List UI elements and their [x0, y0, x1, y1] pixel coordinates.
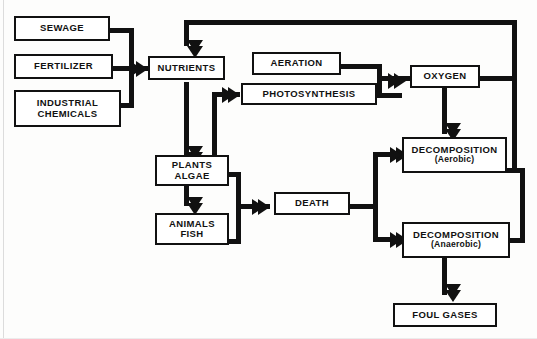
edge-decomp-anaerobic-to-bus-h — [508, 238, 525, 243]
edge-plants-right-stub — [228, 172, 241, 177]
arrowhead-into-nutrients-left — [136, 61, 148, 77]
node-decomposition-anaerobic-sublabel: (Anaerobic) — [431, 240, 481, 249]
node-death[interactable]: DEATH — [274, 192, 350, 215]
edge-death-split-v — [373, 152, 378, 242]
node-animals-fish-sublabel: FISH — [180, 229, 203, 239]
node-plants-algae[interactable]: PLANTS ALGAE — [155, 155, 229, 186]
edge-feedback-top-h — [184, 20, 517, 25]
edge-bus-join-h — [512, 168, 525, 173]
node-nutrients-label: NUTRIENTS — [158, 63, 216, 73]
node-decomposition-aerobic-sublabel: (Aerobic) — [435, 155, 475, 164]
node-animals-fish[interactable]: ANIMALS FISH — [155, 213, 229, 245]
arrowhead-into-foul-gases — [445, 290, 461, 302]
node-death-label: DEATH — [295, 198, 329, 208]
page-edge-left — [3, 0, 4, 339]
node-oxygen-label: OXYGEN — [423, 71, 466, 81]
edge-photosynthesis-h — [376, 93, 402, 98]
node-fertilizer-label: FERTILIZER — [34, 61, 93, 71]
node-photosynthesis[interactable]: PHOTOSYNTHESIS — [241, 83, 377, 105]
edge-animals-right-stub — [228, 239, 241, 244]
edge-plants-to-photosynthesis-v — [212, 92, 217, 164]
node-fertilizer[interactable]: FERTILIZER — [14, 54, 113, 79]
node-sewage-label: SEWAGE — [40, 23, 84, 33]
edge-nutrients-to-plants-v — [184, 82, 189, 156]
edge-bus-lower-riser — [520, 168, 525, 242]
node-decomposition-aerobic[interactable]: DECOMPOSITION (Aerobic) — [402, 137, 507, 173]
arrowhead-into-oxygen — [394, 73, 406, 89]
node-foul-gases[interactable]: FOUL GASES — [393, 303, 497, 327]
node-plants-algae-sublabel: ALGAE — [174, 171, 209, 181]
edge-bus-join-v — [512, 76, 517, 172]
node-oxygen[interactable]: OXYGEN — [410, 65, 480, 88]
node-foul-gases-label: FOUL GASES — [412, 310, 478, 320]
node-aeration-label: AERATION — [270, 58, 322, 68]
flowchart-canvas: SEWAGE FERTILIZER INDUSTRIAL CHEMICALS N… — [0, 0, 537, 339]
node-decomposition-anaerobic[interactable]: DECOMPOSITION (Anaerobic) — [402, 222, 510, 258]
edge-aeration-h — [340, 64, 382, 69]
node-nutrients[interactable]: NUTRIENTS — [148, 56, 225, 80]
node-sewage[interactable]: SEWAGE — [14, 16, 110, 41]
node-aeration[interactable]: AERATION — [252, 52, 341, 75]
node-plants-algae-label: PLANTS — [172, 160, 212, 170]
arrowhead-into-death — [258, 199, 270, 215]
arrowhead-into-photosynthesis — [228, 87, 240, 103]
node-industrial-chemicals[interactable]: INDUSTRIAL CHEMICALS — [14, 90, 121, 127]
edge-oxygen-to-bus-h — [478, 76, 515, 81]
node-industrial-chemicals-label: INDUSTRIAL — [37, 98, 99, 108]
node-photosynthesis-label: PHOTOSYNTHESIS — [262, 89, 355, 99]
node-industrial-chemicals-sublabel: CHEMICALS — [37, 109, 97, 119]
